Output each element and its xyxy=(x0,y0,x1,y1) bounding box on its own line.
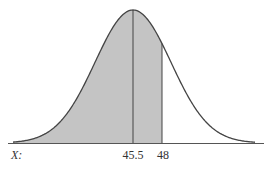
tick-label-bound: 48 xyxy=(157,148,169,162)
axis-label: X: xyxy=(10,148,22,162)
shaded-area xyxy=(13,10,162,143)
normal-curve-chart: X: 45.5 48 xyxy=(0,0,271,175)
tick-label-mean: 45.5 xyxy=(123,148,144,162)
